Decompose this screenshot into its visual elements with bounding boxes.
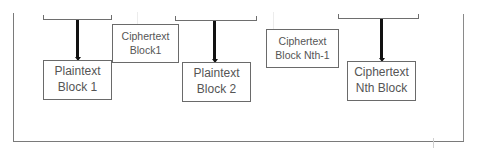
tick-mark <box>433 138 434 148</box>
bracket-2 <box>175 16 257 21</box>
ciphertext-block-nth-minus-1-box: Ciphertext Block Nth-1 <box>266 29 339 68</box>
box-label-line2: Block 2 <box>197 82 236 98</box>
arrow-2-shaft <box>213 21 216 59</box>
box-label-line1: Ciphertext <box>354 65 409 81</box>
frame-right-edge <box>463 14 464 142</box>
box-label-line2: Block 1 <box>58 80 97 96</box>
frame-bottom-edge <box>13 141 464 142</box>
arrow-1-shaft <box>76 20 79 57</box>
arrow-3-shaft <box>380 19 383 58</box>
plaintext-block-2-box: Plaintext Block 2 <box>182 62 251 102</box>
box-label-line2: Nth Block <box>356 81 407 97</box>
faint-guide-line <box>273 12 274 30</box>
box-label-line1: Plaintext <box>54 64 100 80</box>
frame-left-edge <box>13 13 14 142</box>
box-label-line2: Block1 <box>130 44 162 58</box>
box-label-line1: Plaintext <box>193 66 239 82</box>
ciphertext-block-1-box: Ciphertext Block1 <box>112 24 179 63</box>
bracket-3 <box>338 14 419 19</box>
plaintext-block-1-box: Plaintext Block 1 <box>43 60 112 100</box>
box-label-line2: Block Nth-1 <box>275 49 329 63</box>
box-label-line1: Ciphertext <box>122 30 170 44</box>
ciphertext-nth-block-box: Ciphertext Nth Block <box>347 61 416 101</box>
box-label-line1: Ciphertext <box>279 35 327 49</box>
